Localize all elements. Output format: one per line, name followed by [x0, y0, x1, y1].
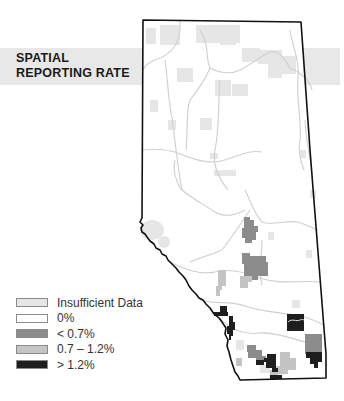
legend-label: 0%	[57, 311, 74, 325]
swatch-low	[16, 329, 48, 338]
legend-label: 0.7 – 1.2%	[57, 342, 114, 356]
legend-item-low: < 0.7%	[16, 326, 143, 342]
swatch-zero	[16, 314, 48, 323]
legend-label: Insufficient Data	[57, 296, 143, 310]
legend-item-zero: 0%	[16, 311, 143, 327]
legend: Insufficient Data 0% < 0.7% 0.7 – 1.2% >…	[16, 295, 143, 373]
title-line-1: SPATIAL	[16, 51, 130, 66]
title-line-2: REPORTING RATE	[16, 66, 130, 81]
map-title: SPATIAL REPORTING RATE	[16, 51, 130, 81]
legend-item-mid: 0.7 – 1.2%	[16, 342, 143, 358]
swatch-insufficient	[16, 298, 48, 307]
legend-item-high: > 1.2%	[16, 357, 143, 373]
legend-label: < 0.7%	[57, 327, 95, 341]
swatch-high	[16, 360, 48, 369]
legend-label: > 1.2%	[57, 358, 95, 372]
swatch-mid	[16, 345, 48, 354]
legend-item-insufficient: Insufficient Data	[16, 295, 143, 311]
